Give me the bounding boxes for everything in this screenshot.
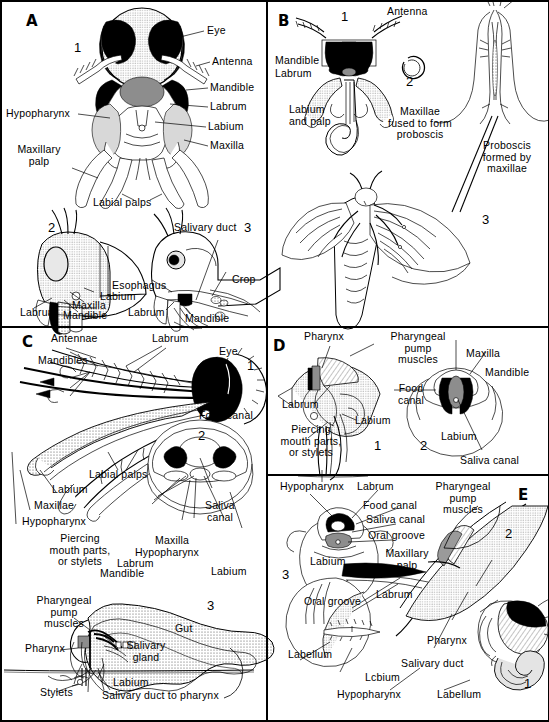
divider-ab-cd-horizontal bbox=[0, 326, 549, 328]
label-b-labium-line2: and palp bbox=[289, 115, 331, 127]
label-a3-mandible: Mandible bbox=[185, 313, 229, 325]
panel-letter-a: A bbox=[26, 12, 38, 30]
label-c3-pharyngeal-line2: pump bbox=[50, 606, 77, 618]
label-e3-labium: Labium bbox=[310, 556, 346, 568]
label-b-antenna: Antenna bbox=[387, 6, 428, 18]
label-e-oral-groove-2: Oral groove bbox=[304, 596, 361, 608]
panel-a-fig-1: 1 bbox=[74, 40, 81, 55]
label-e-saliva-canal: Saliva canal bbox=[366, 514, 425, 526]
label-c-saliva-line1: Saliva bbox=[205, 499, 235, 511]
panel-d-fig-2: 2 bbox=[420, 438, 427, 453]
label-b-mandible: Mandible bbox=[275, 55, 319, 67]
label-d-labrum: Labrum bbox=[282, 399, 319, 411]
label-c2-mandible: Mandible bbox=[100, 568, 144, 580]
label-d-mandible: Mandible bbox=[485, 367, 529, 379]
panel-letter-c: C bbox=[22, 333, 33, 351]
label-e-labium-2: Lcbium bbox=[365, 672, 400, 684]
label-a-labium: Labium bbox=[208, 121, 244, 133]
label-c-saliva-canal: Saliva canal bbox=[193, 500, 247, 523]
label-d-piercing-line1: Piercing bbox=[291, 423, 331, 435]
label-a3-crop: Crop bbox=[232, 274, 256, 286]
label-e-hypopharynx-2: Hypopharynx bbox=[337, 689, 401, 701]
label-c-labrum: Labrum bbox=[152, 333, 189, 345]
label-c-piercing-line2: mouth parts, bbox=[50, 544, 111, 556]
label-d-piercing-line3: or stylets bbox=[289, 446, 333, 458]
label-d-pharyngeal-line2: pump bbox=[404, 342, 431, 354]
frame-top bbox=[0, 0, 549, 2]
label-a-antenna: Antenna bbox=[212, 56, 253, 68]
label-a-maxillary-palp: Maxillary palp bbox=[6, 144, 72, 167]
panel-letter-e: E bbox=[518, 486, 528, 504]
label-d-pharynx: Pharynx bbox=[304, 331, 344, 343]
label-d-pharyngeal-line3: muscles bbox=[398, 353, 438, 365]
divider-a-b-vertical bbox=[266, 0, 268, 328]
label-e-pharyngeal-line2: pump bbox=[449, 492, 476, 504]
label-b-maxillae-line2: fused to form bbox=[388, 117, 452, 129]
label-e-pharyngeal-line1: Pharyngeal bbox=[435, 480, 490, 492]
label-c-hypopharynx: Hypopharynx bbox=[22, 516, 86, 528]
label-b-proboscis-line2: formed by bbox=[483, 151, 532, 163]
label-a3-labrum: Labrum bbox=[128, 307, 165, 319]
label-e-labrum-2: Labrum bbox=[376, 589, 413, 601]
label-c3-salivary-gland-line2: gland bbox=[133, 651, 160, 663]
label-c-piercing-line1: Piercing bbox=[60, 532, 100, 544]
label-a-maxillary-palp-line1: Maxillary bbox=[17, 143, 60, 155]
label-e-food-canal: Food canal bbox=[363, 500, 417, 512]
panel-letter-b: B bbox=[278, 12, 289, 30]
label-d-maxilla: Maxilla bbox=[466, 348, 500, 360]
label-c-antennae: Antennae bbox=[51, 333, 98, 345]
label-d-food-line1: Food bbox=[399, 382, 424, 394]
label-a-eye: Eye bbox=[207, 25, 226, 37]
label-e-pharyngeal-pump-muscles: Pharyngeal pump muscles bbox=[428, 481, 498, 516]
panel-e-fig-2: 2 bbox=[505, 526, 512, 541]
label-a-mandible: Mandible bbox=[210, 82, 254, 94]
panel-c-fig-3: 3 bbox=[207, 598, 214, 613]
label-e-hypopharynx: Hypopharynx bbox=[280, 481, 344, 493]
label-e-pharyngeal-line3: muscles bbox=[443, 503, 483, 515]
panel-e-fig-3: 3 bbox=[282, 567, 289, 582]
label-c-piercing-line3: or stylets bbox=[58, 555, 102, 567]
label-c3-salivary-duct-to-pharynx: Salivary duct to pharynx bbox=[102, 690, 219, 702]
label-c3-stylets: Stylets bbox=[40, 687, 73, 699]
label-b-labrum: Labrum bbox=[275, 68, 312, 80]
label-c3-pharynx: Pharynx bbox=[25, 643, 65, 655]
label-d-food-line2: canal bbox=[398, 394, 424, 406]
label-c-saliva-line2: canal bbox=[207, 511, 233, 523]
label-c-labium: Labium bbox=[52, 484, 88, 496]
label-c3-labium: Labium bbox=[113, 677, 149, 689]
label-b-proboscis: Proboscis formed by maxillae bbox=[468, 140, 546, 175]
label-b-maxillae-line1: Maxillae bbox=[400, 105, 440, 117]
panel-e-fig-1: 1 bbox=[524, 676, 531, 691]
label-b-labium-and-palp: Labium and palp bbox=[289, 104, 331, 127]
label-d-pharyngeal-line1: Pharyngeal bbox=[390, 330, 445, 342]
label-d-labium: Labium bbox=[355, 415, 391, 427]
label-b-labium-line1: Labium bbox=[289, 103, 325, 115]
label-b-maxillae-line3: proboscis bbox=[397, 128, 444, 140]
label-c-piercing-stylets: Piercing mouth parts, or stylets bbox=[32, 533, 128, 568]
figure-plate: A 1 2 3 Eye Antenna Mandible Labrum Labi… bbox=[0, 0, 549, 722]
label-a-maxillary-palp-line2: palp bbox=[29, 155, 50, 167]
panel-a-fig-3: 3 bbox=[244, 220, 251, 235]
label-e-labellum-2: Labellum bbox=[437, 689, 481, 701]
label-a-maxilla: Maxilla bbox=[210, 140, 244, 152]
label-a-labial-palps: Labial palps bbox=[93, 197, 151, 209]
label-b-proboscis-line3: maxillae bbox=[487, 162, 527, 174]
label-e-labellum: Labellum bbox=[288, 649, 332, 661]
label-e-maxillary-palp: Maxillary palp bbox=[376, 548, 438, 571]
label-c-mandibles: Mandibles bbox=[38, 355, 88, 367]
label-a2-labrum: Labrum bbox=[20, 307, 57, 319]
divider-d-e-horizontal bbox=[266, 474, 549, 476]
label-d-pharyngeal-pump-muscles: Pharyngeal pump muscles bbox=[379, 331, 457, 366]
label-c3-pharyngeal-pump-muscles: Pharyngeal pump muscles bbox=[24, 595, 104, 630]
label-d-food-canal: Food canal bbox=[390, 383, 432, 406]
label-e-labrum: Labrum bbox=[357, 481, 394, 493]
label-c2-maxilla: Maxilla bbox=[155, 535, 189, 547]
panel-b-fig-1: 1 bbox=[341, 9, 348, 24]
label-c3-gut: Gut bbox=[175, 623, 193, 635]
label-b-maxillae-fused: Maxillae fused to form proboscis bbox=[372, 106, 468, 141]
panel-b-fig-3: 3 bbox=[482, 212, 489, 227]
label-c3-pharyngeal-line1: Pharyngeal bbox=[36, 594, 91, 606]
label-a-hypopharynx: Hypopharynx bbox=[6, 108, 70, 120]
label-d2-labium: Labium bbox=[441, 431, 477, 443]
panel-c-fig-2: 2 bbox=[198, 428, 205, 443]
